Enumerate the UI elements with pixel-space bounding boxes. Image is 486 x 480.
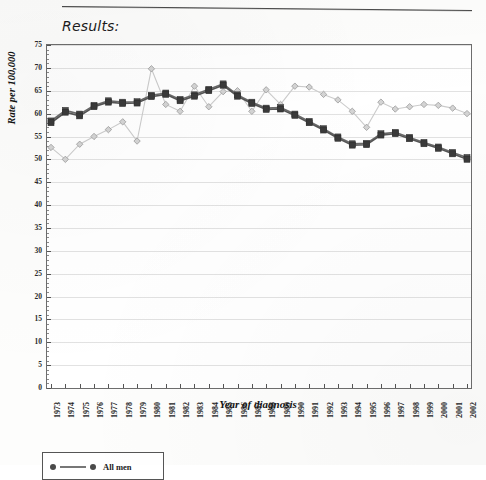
data-point-marker: [292, 112, 298, 118]
series-3: [48, 66, 470, 163]
data-point-marker: [134, 100, 140, 106]
y-tick-label: 35: [2, 223, 42, 232]
data-point-marker: [435, 145, 441, 151]
data-point-marker: [435, 102, 441, 108]
y-tick-label: 0: [2, 383, 42, 392]
data-point-marker: [48, 120, 54, 126]
data-point-marker: [249, 108, 255, 114]
series-line: [51, 69, 467, 160]
y-tick-label: 25: [2, 269, 42, 278]
y-tick-label: 55: [2, 132, 42, 141]
data-point-marker: [249, 101, 255, 107]
data-point-marker: [392, 131, 398, 137]
series-line: [51, 84, 467, 158]
data-point-marker: [220, 82, 226, 88]
legend-marker-end-icon: [90, 464, 96, 470]
header-divider-rule: [62, 6, 472, 11]
data-point-marker: [421, 101, 427, 107]
x-axis-title: Year of diagnosis: [46, 398, 470, 410]
y-tick-label: 40: [2, 200, 42, 209]
data-series-layer: [47, 45, 471, 388]
y-tick-label: 75: [2, 40, 42, 49]
legend-line-icon: [60, 466, 86, 468]
legend-marker-start-icon: [50, 464, 56, 470]
y-tick-label: 70: [2, 63, 42, 72]
data-point-marker: [449, 105, 455, 111]
y-tick-label: 60: [2, 109, 42, 118]
section-heading-results: Results:: [62, 18, 120, 34]
y-tick-label: 50: [2, 154, 42, 163]
data-point-marker: [148, 94, 154, 100]
data-point-marker: [77, 113, 83, 119]
chart-figure: Rate per 100,000 05101520253035404550556…: [0, 38, 486, 465]
data-point-marker: [105, 126, 111, 132]
plot-area: [46, 44, 472, 389]
data-point-marker: [321, 127, 327, 133]
data-point-marker: [421, 141, 427, 147]
data-point-marker: [378, 132, 384, 138]
y-tick-label: 65: [2, 86, 42, 95]
data-point-marker: [406, 104, 412, 110]
legend-entry: All men: [50, 462, 132, 472]
data-point-marker: [364, 142, 370, 148]
data-point-marker: [392, 106, 398, 112]
y-tick-label: 30: [2, 246, 42, 255]
data-point-marker: [91, 133, 97, 139]
data-point-marker: [378, 99, 384, 105]
y-tick-mark: [47, 388, 51, 389]
chart-legend: All men: [42, 452, 164, 480]
legend-label: All men: [103, 462, 132, 472]
data-point-marker: [148, 66, 154, 72]
y-tick-label: 15: [2, 314, 42, 323]
y-tick-label: 20: [2, 292, 42, 301]
data-point-marker: [105, 99, 111, 105]
data-point-marker: [349, 142, 355, 148]
data-point-marker: [191, 83, 197, 89]
y-tick-label: 45: [2, 177, 42, 186]
data-point-marker: [91, 104, 97, 110]
data-point-marker: [464, 110, 470, 116]
data-point-marker: [120, 101, 126, 107]
data-point-marker: [163, 101, 169, 107]
data-point-marker: [407, 136, 413, 142]
data-point-marker: [320, 91, 326, 97]
data-point-marker: [278, 106, 284, 112]
series-1: [48, 82, 470, 162]
data-point-marker: [464, 156, 470, 162]
data-point-marker: [206, 88, 212, 94]
y-tick-label: 5: [2, 360, 42, 369]
series-line: [51, 85, 467, 159]
data-point-marker: [191, 93, 197, 99]
data-point-marker: [450, 151, 456, 157]
data-point-marker: [306, 120, 312, 126]
data-point-marker: [177, 98, 183, 104]
data-point-marker: [62, 109, 68, 115]
data-point-marker: [177, 108, 183, 114]
y-tick-label: 10: [2, 337, 42, 346]
data-point-marker: [234, 93, 240, 99]
x-tick-label: 2002: [469, 402, 478, 418]
series-2: [48, 81, 470, 161]
data-point-marker: [335, 135, 341, 141]
data-point-marker: [263, 106, 269, 112]
data-point-marker: [163, 91, 169, 97]
data-point-marker: [306, 84, 312, 90]
